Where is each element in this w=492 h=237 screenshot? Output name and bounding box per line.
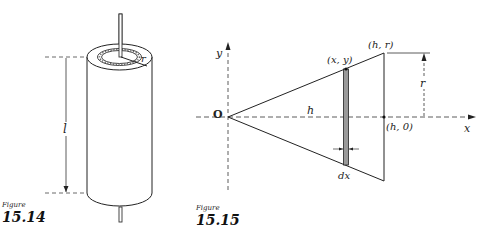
cylinder-bottom-arc — [87, 193, 152, 206]
label-point-xy: (x, y) — [327, 54, 353, 65]
figure-15-15: y x O h (x, y) dx (h, r) (h, 0) r — [195, 39, 476, 228]
length-arrow-bottom — [64, 186, 69, 192]
label-origin: O — [213, 108, 223, 121]
bottom-rod — [119, 207, 122, 222]
caption-number-15-14: 15.14 — [2, 209, 46, 225]
label-length-l: l — [63, 122, 67, 136]
figures-canvas: r l Figure 15.14 y x O h (x, y) — [0, 0, 492, 237]
caption-word-15-14: Figure — [1, 201, 26, 209]
label-radius-r-cone: r — [420, 77, 426, 90]
label-point-h0: (h, 0) — [386, 121, 413, 132]
cone-bottom-edge — [228, 117, 384, 181]
label-x-axis: x — [464, 122, 471, 135]
caption-word-15-15: Figure — [195, 204, 220, 212]
point-xy-dot — [344, 67, 347, 70]
caption-number-15-15: 15.15 — [196, 212, 240, 228]
strip-dx — [344, 69, 349, 165]
label-point-hr: (h, r) — [368, 39, 393, 50]
dx-arrowhead-right — [349, 148, 353, 151]
r-arrow-top — [422, 53, 427, 61]
x-axis-arrow — [468, 115, 476, 120]
label-height-h: h — [307, 104, 314, 117]
label-dx: dx — [338, 170, 350, 181]
dx-arrowhead-left — [339, 148, 343, 151]
figure-15-14: r l Figure 15.14 — [1, 14, 152, 225]
cone-top-edge — [228, 53, 384, 117]
y-axis-arrow — [226, 42, 231, 50]
label-y-axis: y — [215, 47, 223, 60]
top-rod-front — [119, 14, 122, 57]
point-h0-dot — [382, 115, 385, 118]
